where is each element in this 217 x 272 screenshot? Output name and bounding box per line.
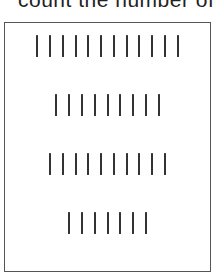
tally-row-2 <box>5 94 210 116</box>
prompt-text: count the number of <box>18 0 214 12</box>
tally-line <box>138 35 140 57</box>
tally-line <box>75 153 77 175</box>
tally-line <box>94 94 96 116</box>
tally-line <box>107 94 109 116</box>
tally-line <box>151 153 153 175</box>
tally-line <box>164 153 166 175</box>
tally-line <box>119 212 121 234</box>
tally-line <box>49 153 51 175</box>
tally-line <box>100 35 102 57</box>
tally-line <box>158 94 160 116</box>
tally-line <box>68 94 70 116</box>
tally-panel <box>4 22 211 272</box>
tally-line <box>132 94 134 116</box>
tally-line <box>145 94 147 116</box>
tally-line <box>177 35 179 57</box>
tally-line <box>36 35 38 57</box>
tally-line <box>164 35 166 57</box>
tally-line <box>145 212 147 234</box>
tally-line <box>151 35 153 57</box>
tally-line <box>68 212 70 234</box>
tally-line <box>138 153 140 175</box>
tally-line <box>75 35 77 57</box>
tally-line <box>62 35 64 57</box>
tally-row-1 <box>5 35 210 57</box>
tally-line <box>126 35 128 57</box>
tally-line <box>100 153 102 175</box>
tally-line <box>132 212 134 234</box>
tally-line <box>81 94 83 116</box>
tally-line <box>119 94 121 116</box>
tally-line <box>87 153 89 175</box>
tally-line <box>49 35 51 57</box>
tally-line <box>81 212 83 234</box>
tally-line <box>126 153 128 175</box>
tally-line <box>113 35 115 57</box>
tally-line <box>62 153 64 175</box>
tally-line <box>113 153 115 175</box>
tally-line <box>107 212 109 234</box>
tally-line <box>55 94 57 116</box>
tally-row-3 <box>5 153 210 175</box>
tally-line <box>87 35 89 57</box>
tally-line <box>94 212 96 234</box>
tally-row-4 <box>5 212 210 234</box>
